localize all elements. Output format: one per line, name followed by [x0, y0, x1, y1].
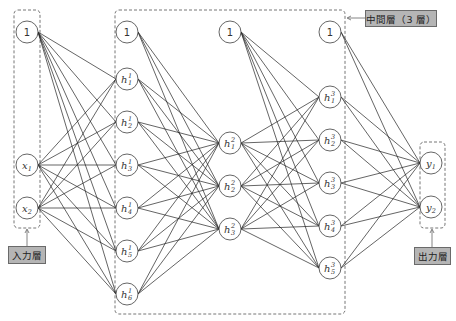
edge: [241, 97, 319, 186]
edge: [341, 97, 420, 163]
edge: [241, 32, 319, 226]
edge: [341, 140, 420, 207]
hidden3-node: h34: [319, 215, 341, 237]
edge: [341, 97, 420, 207]
input-layer-label: 入力層: [8, 246, 46, 264]
hidden2-node: h21: [219, 132, 241, 154]
edge: [138, 79, 219, 143]
svg-text:1: 1: [124, 27, 130, 38]
bias-node: 1: [16, 21, 38, 43]
input-node: x1: [16, 154, 38, 176]
input-node: x2: [16, 197, 38, 219]
edges: [38, 32, 420, 294]
edge: [241, 97, 319, 143]
svg-text:1: 1: [227, 27, 233, 38]
edge: [241, 97, 319, 229]
hidden1-node: h13: [116, 154, 138, 176]
neural-network-diagram: 1x1x21h11h12h13h14h15h161h21h22h231h31h3…: [0, 0, 456, 321]
edge: [38, 32, 116, 122]
edge: [241, 140, 319, 229]
edge: [138, 143, 219, 294]
edge: [241, 229, 319, 268]
bias-node: 1: [116, 21, 138, 43]
edge: [138, 143, 219, 208]
edge: [241, 32, 319, 140]
svg-text:1: 1: [24, 27, 30, 38]
edge: [341, 163, 420, 268]
edge: [38, 79, 116, 165]
edge: [138, 186, 219, 294]
edge: [138, 32, 219, 229]
output-node: y1: [420, 152, 442, 174]
hidden1-node: h12: [116, 111, 138, 133]
hidden1-node: h11: [116, 68, 138, 90]
edge: [241, 186, 319, 268]
edge: [38, 208, 116, 294]
edge: [138, 143, 219, 165]
edge: [241, 32, 319, 97]
hidden3-node: h35: [319, 257, 341, 279]
edge: [138, 32, 219, 186]
edge: [241, 32, 319, 268]
hidden1-node: h14: [116, 197, 138, 219]
edge: [38, 208, 116, 251]
edge: [38, 32, 116, 208]
output-layer-label: 出力層: [414, 247, 451, 265]
edge: [241, 32, 319, 183]
edge: [138, 229, 219, 294]
layer-group-boxes: [14, 10, 445, 314]
hidden3-node: h31: [319, 86, 341, 108]
edge: [38, 32, 116, 251]
hidden1-node: h15: [116, 240, 138, 262]
bias-node: 1: [219, 21, 241, 43]
edge: [241, 226, 319, 229]
svg-text:1: 1: [327, 27, 333, 38]
edge: [241, 183, 319, 229]
bias-node: 1: [319, 21, 341, 43]
hidden2-node: h22: [219, 175, 241, 197]
label-connectors: [25, 16, 434, 247]
nodes: 1x1x21h11h12h13h14h15h161h21h22h231h31h3…: [16, 21, 442, 305]
hidden2-node: h23: [219, 218, 241, 240]
edge: [138, 32, 219, 143]
edge: [341, 32, 420, 207]
edge: [138, 143, 219, 251]
edge: [341, 183, 420, 207]
output-node: y2: [420, 196, 442, 218]
hidden-layers-label: 中間層（3 層）: [365, 10, 437, 27]
hidden1-node: h16: [116, 283, 138, 305]
edge: [38, 32, 116, 294]
edge: [138, 122, 219, 143]
hidden3-node: h33: [319, 172, 341, 194]
edge: [241, 143, 319, 268]
hidden3-node: h32: [319, 129, 341, 151]
